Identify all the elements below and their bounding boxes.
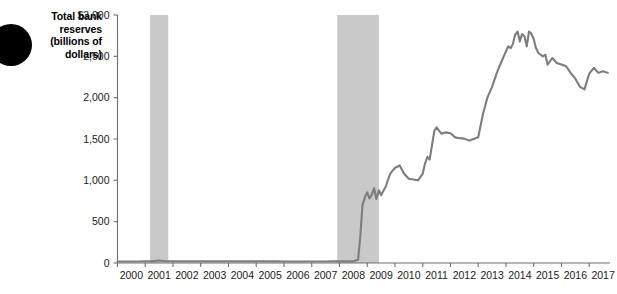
recession-2001: [150, 15, 168, 263]
recession-2008: [337, 15, 379, 263]
y-tick-label: 500: [92, 215, 110, 227]
x-tick-label: 2013: [480, 269, 504, 281]
x-tick-label: 2004: [231, 269, 255, 281]
x-tick-label: 2006: [286, 269, 310, 281]
x-tick-label: 2012: [453, 269, 477, 281]
x-tick-label: 2010: [397, 269, 421, 281]
x-tick-label: 2007: [314, 269, 338, 281]
x-tick-label: 2014: [508, 269, 532, 281]
y-tick-label: 1,500: [83, 133, 109, 145]
x-tick-label: 2000: [120, 269, 144, 281]
y-tick-label: 2,000: [83, 91, 109, 103]
x-tick-label: 2015: [536, 269, 560, 281]
y-tick-label: 1,000: [83, 174, 109, 186]
recession-bands: [150, 15, 379, 263]
y-tick-label: 0: [104, 257, 110, 269]
x-tick-label: 2011: [425, 269, 448, 281]
x-tick-label: 2008: [342, 269, 366, 281]
x-tick-label: 2016: [564, 269, 588, 281]
chart-figure: Total bank reserves (billions of dollars…: [0, 0, 617, 294]
line-chart-plot: $3,0002,5002,0001,5001,0005000 200020012…: [0, 0, 617, 294]
y-tick-labels: $3,0002,5002,0001,5001,0005000: [77, 9, 109, 269]
x-tick-label: 2009: [369, 269, 393, 281]
y-tick-label: $3,000: [77, 9, 109, 21]
x-tick-label: 2002: [175, 269, 199, 281]
x-tick-label: 2001: [147, 269, 171, 281]
x-tick-label: 2017: [591, 269, 615, 281]
x-tick-labels: 2000200120022003200420052006200720082009…: [120, 269, 615, 281]
x-tick-label: 2005: [258, 269, 282, 281]
y-tick-label: 2,500: [83, 50, 109, 62]
x-tick-label: 2003: [203, 269, 227, 281]
